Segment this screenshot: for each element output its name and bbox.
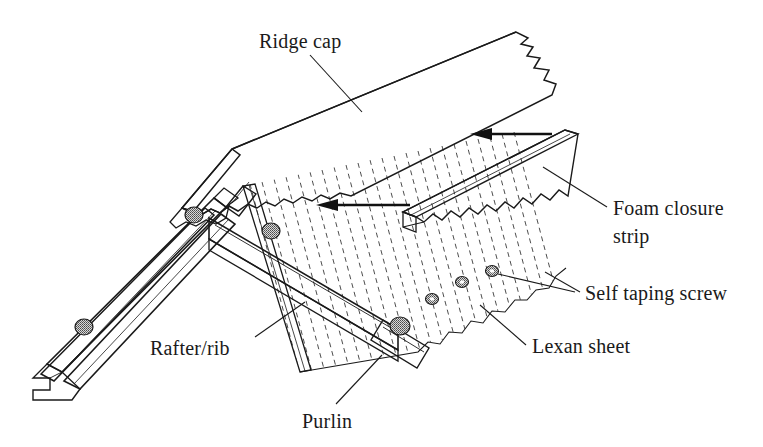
screw-head bbox=[75, 319, 93, 335]
label-self-taping-screw: Self taping screw bbox=[585, 282, 728, 305]
screw-head bbox=[390, 317, 410, 335]
diagram-canvas: Ridge cap Foam closure strip Self taping… bbox=[0, 0, 763, 447]
label-lexan-sheet: Lexan sheet bbox=[532, 335, 631, 357]
leader-ridge-cap bbox=[310, 55, 362, 112]
label-foam-closure-line2: strip bbox=[613, 225, 650, 248]
ridge-cap-diagram: Ridge cap Foam closure strip Self taping… bbox=[0, 0, 763, 447]
label-purlin: Purlin bbox=[302, 410, 352, 432]
label-foam-closure-line1: Foam closure bbox=[613, 197, 724, 219]
leader-foam-closure bbox=[543, 167, 607, 207]
rafter-notched-end bbox=[33, 364, 80, 400]
screw-head bbox=[426, 294, 439, 305]
label-ridge-cap: Ridge cap bbox=[259, 30, 341, 53]
rafter-inner-line-2 bbox=[74, 219, 229, 384]
screw-head bbox=[185, 207, 203, 223]
screw-head bbox=[486, 266, 499, 277]
screw-head bbox=[456, 277, 469, 288]
screw-head bbox=[262, 223, 280, 239]
label-rafter-rib: Rafter/rib bbox=[150, 337, 230, 359]
